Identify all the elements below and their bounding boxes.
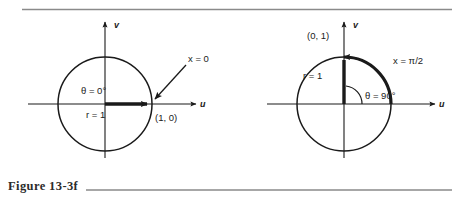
theta-label-left: θ = 0°: [81, 85, 106, 96]
radius-label-left: r = 1: [86, 109, 105, 120]
diagram-left: v u θ = 0° r = 1 (1, 0) x = 0: [28, 20, 209, 158]
point-label-left: (1, 0): [155, 112, 177, 123]
param-label-left: x = 0: [188, 53, 209, 64]
figure-caption: Figure 13-3f: [8, 179, 78, 194]
v-axis-label-left: v: [114, 20, 120, 30]
leader-arrow-left: [155, 65, 186, 99]
v-axis-label-right: v: [353, 20, 359, 30]
figure-13-3f: v u θ = 0° r = 1 (1, 0) x = 0 v u (0, 1)…: [0, 0, 466, 202]
u-axis-label-right: u: [439, 99, 445, 109]
radius-label-right: r = 1: [303, 70, 322, 81]
diagram-right: v u (0, 1) r = 1 θ = 90° x = π/2: [267, 20, 445, 158]
param-label-right: x = π/2: [393, 55, 423, 66]
theta-label-right: θ = 90°: [365, 90, 396, 101]
figure-canvas: v u θ = 0° r = 1 (1, 0) x = 0 v u (0, 1)…: [0, 0, 466, 202]
u-axis-label-left: u: [200, 99, 206, 109]
point-label-right: (0, 1): [307, 30, 329, 41]
angle-arc-right: [346, 86, 362, 104]
